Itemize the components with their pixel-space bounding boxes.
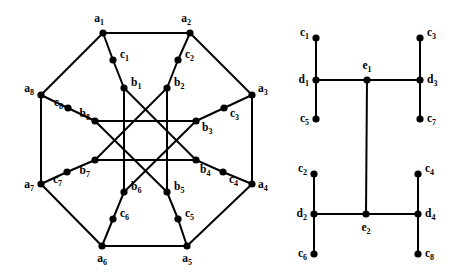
graph-node-b2[interactable] [163, 84, 170, 91]
graph-node-b7[interactable] [91, 156, 98, 163]
node-label-c6: c6 [120, 207, 129, 222]
graph-node-a5[interactable] [183, 242, 190, 249]
graph-node-a8[interactable] [37, 91, 44, 98]
node-label-c4: c4 [229, 173, 238, 188]
node-label-c8: c8 [425, 247, 434, 262]
graph-edge-b1-b4 [124, 88, 196, 160]
node-label-d1: d1 [299, 73, 309, 88]
node-label-a3: a3 [258, 82, 268, 97]
graph-node-c1[interactable] [109, 56, 116, 63]
node-label-c1: c1 [300, 26, 309, 41]
node-label-d4: d4 [425, 207, 435, 222]
graph-node-a1[interactable] [99, 29, 106, 36]
node-label-c3: c3 [427, 26, 436, 41]
graph-node-c7[interactable] [63, 168, 70, 175]
graph-node-b4[interactable] [192, 156, 199, 163]
graph-edge-a2-a3 [190, 33, 252, 95]
node-label-c3: c3 [230, 107, 239, 122]
graph-node-a3[interactable] [248, 91, 255, 98]
graph-node-c4[interactable] [219, 168, 226, 175]
graph-canvas: a1a2a3a4a5a6a7a8c1c2c3c4c5c6c7c8b1b2b3b4… [0, 0, 465, 279]
node-label-c5: c5 [300, 112, 309, 127]
node-label-a7: a7 [24, 178, 34, 193]
left-graph-edges [41, 33, 252, 246]
graph-node-c5[interactable] [312, 115, 319, 122]
graph-edge-c5-b5 [167, 192, 178, 219]
graph-node-b8[interactable] [91, 117, 98, 124]
graph-node-a2[interactable] [186, 29, 193, 36]
graph-node-c6[interactable] [310, 250, 317, 257]
graph-node-e2[interactable] [362, 210, 369, 217]
graph-edge-a3-c3 [224, 95, 252, 108]
node-label-b8: b8 [80, 107, 90, 122]
graph-node-c8[interactable] [64, 104, 71, 111]
node-label-a2: a2 [181, 12, 191, 27]
node-label-d3: d3 [427, 73, 437, 88]
graph-node-c7[interactable] [416, 115, 423, 122]
node-label-a5: a5 [182, 252, 192, 267]
node-label-e2: e2 [361, 221, 370, 236]
graph-node-a4[interactable] [248, 180, 255, 187]
graph-node-c2[interactable] [174, 56, 181, 63]
node-label-a4: a4 [258, 178, 268, 193]
octagonal-star-graph: a1a2a3a4a5a6a7a8c1c2c3c4c5c6c7c8b1b2b3b4… [24, 12, 268, 267]
graph-edge-a4-a5 [187, 184, 252, 246]
graph-edge-b2-b7 [95, 88, 167, 160]
node-label-a8: a8 [24, 82, 34, 97]
node-label-b3: b3 [202, 121, 212, 136]
graph-node-c1[interactable] [312, 34, 319, 41]
graph-edge-a1-c1 [103, 33, 113, 60]
graph-node-c6[interactable] [109, 215, 116, 222]
graph-edge-c3-b3 [196, 108, 224, 121]
graph-edge-a5-c5 [178, 219, 187, 246]
graph-node-c4[interactable] [414, 170, 421, 177]
graph-node-b5[interactable] [163, 188, 170, 195]
node-label-a6: a6 [97, 252, 107, 267]
graph-edge-e1-e2 [366, 80, 367, 214]
graph-edge-a6-c6 [102, 219, 113, 246]
graph-node-b3[interactable] [192, 117, 199, 124]
graph-node-b1[interactable] [120, 84, 127, 91]
graph-node-c2[interactable] [310, 170, 317, 177]
node-label-d2: d2 [297, 207, 307, 222]
graph-edge-a8-a1 [41, 33, 103, 95]
graph-node-c3[interactable] [416, 34, 423, 41]
graph-node-d2[interactable] [310, 210, 317, 217]
node-label-b7: b7 [80, 164, 90, 179]
graph-node-c8[interactable] [414, 250, 421, 257]
graph-node-a6[interactable] [98, 242, 105, 249]
graph-node-c3[interactable] [220, 104, 227, 111]
tree-graph: c1d1c5e1c3d3c7c2d2c6e2c4d4c8 [297, 26, 438, 262]
node-label-a1: a1 [94, 12, 104, 27]
node-label-c7: c7 [427, 112, 436, 127]
graph-node-a7[interactable] [37, 180, 44, 187]
graph-node-d3[interactable] [416, 76, 423, 83]
node-label-c2: c2 [185, 48, 194, 63]
node-label-c2: c2 [298, 162, 307, 177]
figure-container: a1a2a3a4a5a6a7a8c1c2c3c4c5c6c7c8b1b2b3b4… [0, 0, 465, 279]
graph-node-b6[interactable] [120, 188, 127, 195]
node-label-b6: b6 [131, 180, 141, 195]
graph-node-d4[interactable] [414, 210, 421, 217]
node-label-c6: c6 [298, 247, 307, 262]
node-label-c4: c4 [425, 162, 434, 177]
node-label-c5: c5 [185, 207, 194, 222]
node-label-e1: e1 [362, 59, 371, 74]
graph-node-e1[interactable] [363, 76, 370, 83]
graph-node-d1[interactable] [312, 76, 319, 83]
node-label-b5: b5 [174, 180, 184, 195]
graph-edge-a6-a7 [41, 184, 102, 246]
node-label-c1: c1 [120, 48, 129, 63]
graph-node-c5[interactable] [174, 215, 181, 222]
node-label-b1: b1 [131, 76, 141, 91]
node-label-b2: b2 [174, 76, 184, 91]
graph-edge-c1-b1 [113, 60, 124, 88]
node-label-c8: c8 [54, 96, 63, 111]
